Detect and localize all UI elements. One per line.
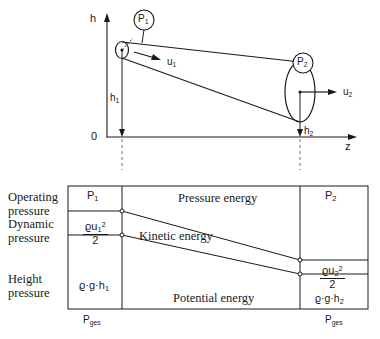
right-dynamic-numerator: ϱu22 — [320, 265, 345, 278]
pipe-diagram — [0, 0, 380, 170]
u2-label: u2 — [343, 87, 352, 98]
right-dynamic-denominator: 2 — [320, 278, 345, 291]
left-total-letter: P — [83, 314, 90, 325]
band-label-potential-energy: Potential energy — [173, 292, 254, 305]
left-dynamic-denominator: 2 — [83, 234, 108, 247]
right-height-term: ϱ·g·h2 — [315, 293, 344, 306]
right-dynamic-term: ϱu22 2 — [320, 265, 345, 291]
p2-label: P2 — [297, 57, 307, 68]
left-pressure-term: P1 — [87, 190, 99, 202]
h2-arrowhead — [297, 129, 303, 137]
band-label-pressure-energy: Pressure energy — [178, 192, 257, 205]
z-axis-label: z — [345, 141, 351, 152]
left-height-term: ϱ·g·h1 — [79, 280, 109, 292]
row-label-dynamic-line2: pressure — [8, 231, 50, 245]
row-label-operating-pressure: Operating pressure — [8, 190, 58, 219]
node-station1-lower — [120, 233, 124, 237]
row-label-height-pressure: Height pressure — [8, 272, 50, 301]
p1-letter: P — [138, 13, 145, 24]
left-height-subscript: 1 — [105, 284, 109, 293]
h2-subscript: 2 — [310, 130, 314, 137]
right-total-label: Pges — [325, 315, 343, 326]
right-pressure-term: P2 — [325, 190, 337, 202]
right-height-subscript: 2 — [340, 298, 344, 306]
row-label-dynamic-line1: Dynamic — [8, 217, 54, 231]
p2-letter: P — [297, 56, 304, 67]
left-dynamic-numerator: ϱu12 — [83, 221, 108, 234]
u1-arrowhead — [151, 54, 161, 60]
u1-arrow-shaft — [134, 52, 155, 58]
right-dynamic-fraction: ϱu22 2 — [320, 265, 345, 291]
pipe-bottom-edge — [122, 58, 300, 122]
node-station2-lower — [298, 272, 302, 276]
left-u-exponent: 2 — [102, 220, 106, 229]
h2-label: h2 — [304, 126, 313, 137]
left-pressure-subscript: 1 — [94, 194, 98, 203]
row-label-height-line1: Height — [8, 272, 42, 286]
left-dynamic-fraction: ϱu12 2 — [83, 221, 108, 247]
origin-label: 0 — [91, 131, 97, 142]
h-axis-arrowhead — [104, 13, 110, 22]
left-total-subscript: ges — [90, 319, 101, 326]
right-u-exponent: 2 — [339, 264, 343, 273]
u2-arrowhead — [328, 89, 337, 95]
u2-subscript: 2 — [349, 91, 353, 98]
left-total-label: Pges — [83, 315, 101, 326]
h1-arrowhead — [119, 129, 125, 137]
p1-subscript: 1 — [145, 18, 149, 25]
figure-root: h 0 z P1 P2 u1 u2 h1 h2 — [0, 0, 380, 339]
p1-label: P1 — [138, 14, 148, 25]
node-station1-upper — [120, 209, 124, 213]
row-label-dynamic-pressure: Dynamic pressure — [8, 217, 54, 246]
inlet-radius-dashed — [122, 38, 133, 50]
u1-subscript: 1 — [173, 61, 177, 68]
row-label-height-line2: pressure — [8, 286, 50, 300]
right-height-expression: ϱ·g·h — [315, 292, 340, 304]
p1-leader-line — [142, 30, 144, 43]
right-total-letter: P — [325, 314, 332, 325]
u1-label: u1 — [167, 57, 176, 68]
h1-subscript: 1 — [116, 97, 120, 104]
p2-subscript: 2 — [304, 61, 308, 68]
pipe-top-edge — [122, 42, 300, 62]
h1-label: h1 — [110, 93, 119, 104]
band-label-kinetic-energy: Kinetic energy — [139, 230, 213, 243]
h-axis-label: h — [90, 13, 96, 24]
right-pressure-subscript: 2 — [332, 194, 336, 203]
row-label-operating-line1: Operating — [8, 190, 58, 204]
right-total-subscript: ges — [332, 319, 343, 326]
left-dynamic-term: ϱu12 2 — [83, 221, 108, 247]
node-station2-upper — [298, 258, 302, 262]
left-height-expression: ϱ·g·h — [79, 279, 105, 291]
